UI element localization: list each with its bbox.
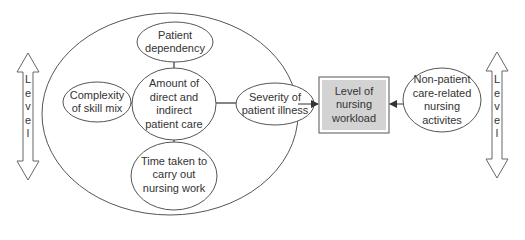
right-level-letter: v: [494, 100, 500, 114]
node-time-taken: Time taken to carry out nursing work: [131, 153, 217, 197]
node-amount-of-care-line-2: direct and: [150, 91, 198, 105]
left-level-letter: l: [27, 127, 29, 141]
node-patient-dependency-line-1: Patient: [158, 29, 192, 43]
target-line-2: nursing: [336, 98, 372, 112]
target-line-3: workload: [332, 112, 376, 126]
node-non-patient-line-3: nursing: [424, 100, 460, 114]
right-level-letter: e: [494, 87, 500, 101]
target-level-of-nursing-workload: Level of nursing workload: [322, 83, 386, 127]
node-complexity-line-2: of skill mix: [72, 102, 123, 116]
node-complexity: Complexity of skill mix: [63, 87, 131, 117]
node-severity-line-1: Severity of: [249, 91, 301, 105]
left-level-letter: v: [25, 100, 31, 114]
node-non-patient-line-1: Non-patient: [414, 73, 471, 87]
node-amount-of-care-line-3: indirect: [156, 104, 191, 118]
node-amount-of-care-line-1: Amount of: [149, 77, 199, 91]
node-severity-line-2: patient illness: [242, 104, 309, 118]
left-level-letter: L: [25, 73, 31, 87]
right-level-letter: l: [496, 127, 498, 141]
left-level-letter: e: [25, 114, 31, 128]
node-patient-dependency: Patient dependency: [137, 27, 213, 57]
target-line-1: Level of: [335, 85, 374, 99]
right-level-letter: e: [494, 114, 500, 128]
node-amount-of-care-line-4: patient care: [145, 118, 202, 132]
right-level-letter: L: [494, 73, 500, 87]
left-level-letter: e: [25, 87, 31, 101]
node-complexity-line-1: Complexity: [70, 89, 124, 103]
node-non-patient-line-4: activites: [422, 114, 462, 128]
node-patient-dependency-line-2: dependency: [145, 42, 205, 56]
node-severity: Severity of patient illness: [236, 89, 314, 119]
left-level-label: L e v e l: [22, 73, 34, 141]
node-non-patient-activities: Non-patient care-related nursing activit…: [403, 72, 481, 128]
node-time-taken-line-2: carry out: [153, 168, 196, 182]
node-time-taken-line-3: nursing work: [143, 182, 205, 196]
right-level-label: L e v e l: [491, 73, 503, 141]
node-time-taken-line-1: Time taken to: [141, 155, 207, 169]
node-non-patient-line-2: care-related: [413, 87, 472, 101]
node-amount-of-care: Amount of direct and indirect patient ca…: [132, 76, 216, 132]
